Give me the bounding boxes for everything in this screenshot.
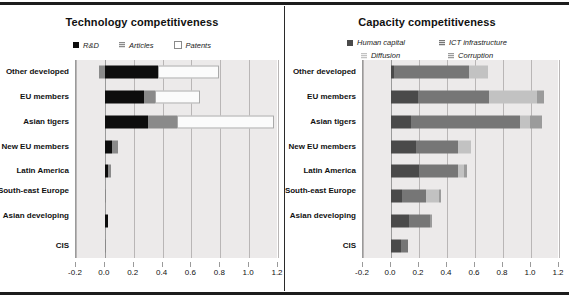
- bar-segment[interactable]: [144, 91, 156, 104]
- legend-label: Articles: [129, 41, 154, 50]
- bar-segment[interactable]: [520, 115, 530, 128]
- stacked-bar[interactable]: [76, 140, 277, 153]
- stacked-bar[interactable]: [363, 214, 558, 227]
- bar-segment[interactable]: [419, 165, 458, 178]
- bar-segment[interactable]: [105, 115, 148, 128]
- x-tick-label: 0.8: [214, 268, 225, 277]
- bar-segment[interactable]: [426, 190, 439, 203]
- bar-segment[interactable]: [489, 91, 537, 104]
- bar-segment[interactable]: [537, 91, 544, 104]
- bar-segment[interactable]: [105, 66, 158, 79]
- bar-row: [363, 134, 558, 159]
- category-axis-technology: Other developedEU membersAsian tigersNew…: [0, 60, 72, 258]
- legend-item-patents[interactable]: Patents: [174, 41, 211, 50]
- bar-segment[interactable]: [148, 115, 177, 128]
- bar-segment[interactable]: [391, 115, 411, 128]
- stacked-bar[interactable]: [76, 214, 277, 227]
- legend-swatch: [73, 42, 79, 48]
- bar-segment[interactable]: [105, 140, 112, 153]
- legend-item-articles[interactable]: Articles: [119, 41, 154, 50]
- category-axis-capacity: Other developedEU membersAsian tigersNew…: [285, 60, 359, 258]
- bar-segment[interactable]: [112, 140, 118, 153]
- bar-segment[interactable]: [177, 115, 274, 128]
- axis-tick-mark: [248, 262, 249, 267]
- axis-tick-mark: [502, 262, 503, 267]
- bar-segment[interactable]: [391, 239, 401, 252]
- legend-label: ICT infrastructure: [449, 38, 507, 47]
- bottom-rule: [0, 292, 569, 295]
- legend-item-human-capital[interactable]: Human capital: [347, 38, 405, 47]
- stacked-bar[interactable]: [76, 91, 277, 104]
- stacked-bar[interactable]: [363, 115, 558, 128]
- axis-tick-mark: [362, 262, 363, 267]
- category-label: Asian developing: [0, 211, 69, 221]
- bar-segment[interactable]: [155, 91, 200, 104]
- stacked-bar[interactable]: [363, 165, 558, 178]
- bar-segment[interactable]: [411, 115, 520, 128]
- bar-segment[interactable]: [402, 190, 426, 203]
- axis-tick-mark: [530, 262, 531, 267]
- axis-tick-mark: [162, 262, 163, 267]
- axis-tick-mark: [418, 262, 419, 267]
- bar-segment[interactable]: [158, 66, 219, 79]
- bar-segment[interactable]: [391, 140, 416, 153]
- bar-segment[interactable]: [458, 140, 471, 153]
- legend-swatch: [361, 53, 367, 59]
- stacked-bar[interactable]: [363, 91, 558, 104]
- stacked-bar[interactable]: [363, 239, 558, 252]
- stacked-bar[interactable]: [363, 140, 558, 153]
- bar-segment[interactable]: [391, 165, 419, 178]
- bar-segment[interactable]: [391, 91, 418, 104]
- x-axis-capacity: -0.20.00.20.40.60.81.01.2: [362, 262, 558, 276]
- category-label: South-east Europe: [0, 186, 69, 196]
- bar-segment[interactable]: [105, 190, 107, 203]
- legend-item-diffusion[interactable]: Diffusion: [361, 51, 400, 60]
- legend-item-r-d[interactable]: R&D: [73, 41, 99, 50]
- category-label: New EU members: [0, 142, 69, 152]
- bar-segment[interactable]: [391, 214, 409, 227]
- bar-segment[interactable]: [394, 66, 470, 79]
- category-label: Other developed: [282, 67, 356, 77]
- stacked-bar[interactable]: [76, 115, 277, 128]
- bar-segment[interactable]: [418, 91, 489, 104]
- bar-segment[interactable]: [416, 140, 458, 153]
- bar-segment[interactable]: [464, 165, 467, 178]
- plot-area-technology: [75, 60, 277, 258]
- bar-segment[interactable]: [439, 190, 442, 203]
- axis-tick-mark: [219, 262, 220, 267]
- legend-item-corruption[interactable]: Corruption: [448, 51, 493, 60]
- stacked-bar[interactable]: [363, 66, 558, 79]
- bar-segment[interactable]: [391, 190, 402, 203]
- legend-item-ict-infrastructure[interactable]: ICT infrastructure: [439, 38, 507, 47]
- stacked-bar[interactable]: [76, 165, 277, 178]
- bar-segment[interactable]: [530, 115, 543, 128]
- x-tick-label: 1.0: [243, 268, 254, 277]
- x-tick-label: 0.0: [98, 268, 109, 277]
- x-tick-label: 0.8: [496, 268, 507, 277]
- bar-segment[interactable]: [409, 214, 430, 227]
- bar-segment[interactable]: [105, 91, 144, 104]
- bar-segment[interactable]: [401, 239, 408, 252]
- bar-segment[interactable]: [105, 214, 108, 227]
- bar-row: [76, 233, 277, 258]
- bar-segment[interactable]: [108, 165, 111, 178]
- stacked-bar[interactable]: [363, 190, 558, 203]
- bar-row: [363, 110, 558, 135]
- legend-swatch: [448, 53, 454, 59]
- bar-segment[interactable]: [105, 239, 107, 252]
- category-label: Latin America: [0, 166, 69, 176]
- bar-segment[interactable]: [469, 66, 487, 79]
- x-tick-label: -0.2: [355, 268, 369, 277]
- category-label: South-east Europe: [282, 186, 356, 196]
- axis-tick-mark: [390, 262, 391, 267]
- bar-row: [363, 159, 558, 184]
- stacked-bar[interactable]: [76, 190, 277, 203]
- x-tick-label: 0.6: [185, 268, 196, 277]
- stacked-bar[interactable]: [76, 66, 277, 79]
- stacked-bar[interactable]: [76, 239, 277, 252]
- legend-label: R&D: [83, 41, 99, 50]
- bar-segment[interactable]: [430, 214, 432, 227]
- x-tick-label: 0.6: [468, 268, 479, 277]
- x-tick-label: 0.0: [384, 268, 395, 277]
- category-label: EU members: [282, 92, 356, 102]
